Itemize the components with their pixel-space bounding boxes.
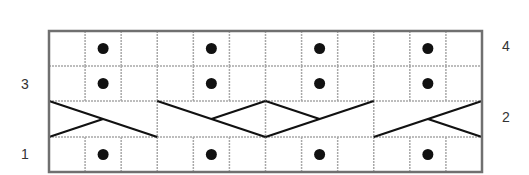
purl-dot-icon <box>98 78 109 89</box>
purl-dot-icon <box>98 149 109 160</box>
row-label-3: 3 <box>21 76 29 92</box>
purl-dot-icon <box>98 43 109 54</box>
row-label-1: 1 <box>21 146 29 162</box>
purl-dot-icon <box>422 78 433 89</box>
purl-dot-icon <box>314 78 325 89</box>
purl-dot-icon <box>422 149 433 160</box>
purl-dot-icon <box>314 43 325 54</box>
knitting-chart <box>0 0 529 175</box>
purl-dot-icon <box>206 149 217 160</box>
purl-dot-icon <box>422 43 433 54</box>
purl-dot-icon <box>206 43 217 54</box>
purl-dot-icon <box>206 78 217 89</box>
purl-dot-icon <box>314 149 325 160</box>
row-label-4: 4 <box>502 38 510 54</box>
row-label-2: 2 <box>502 109 510 125</box>
